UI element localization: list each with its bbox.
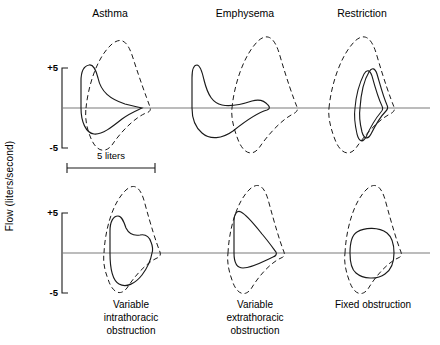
panel-label-fixed-obstruction: Fixed obstruction <box>335 299 411 310</box>
panel-asthma <box>81 40 150 150</box>
fo-label-line1: Fixed obstruction <box>335 299 411 310</box>
emphysema-patient-loop <box>192 65 269 138</box>
panel-restriction <box>329 37 395 153</box>
panel-label-variable-extrathoracic: Variable extrathoracic obstruction <box>226 299 283 336</box>
veo-label-line3: obstruction <box>231 325 280 336</box>
row2-y-axis: +5 -5 <box>47 207 430 298</box>
flow-volume-chart-svg: Flow (liters/second) +5 -5 Asthma Emphys… <box>0 0 440 345</box>
scale-bar-group: 5 liters <box>67 150 155 173</box>
panel-emphysema <box>192 37 297 153</box>
panel-variable-intrathoracic-obstruction <box>104 186 161 292</box>
vio-label-line2: intrathoracic <box>104 312 158 323</box>
restriction-patient-loop-inner <box>355 71 383 141</box>
flow-volume-loop-figure: Flow (liters/second) +5 -5 Asthma Emphys… <box>0 0 440 345</box>
fo-normal-loop <box>345 185 402 293</box>
row1-tick-negative: -5 <box>50 142 59 153</box>
panel-title-restriction: Restriction <box>337 7 387 19</box>
veo-label-line2: extrathoracic <box>226 312 283 323</box>
row1-tick-positive: +5 <box>47 62 59 73</box>
panel-title-asthma: Asthma <box>92 7 128 19</box>
vio-label-line1: Variable <box>113 299 149 310</box>
row2-tick-negative: -5 <box>50 287 59 298</box>
veo-label-line1: Variable <box>237 299 273 310</box>
vio-patient-loop <box>110 216 153 286</box>
row2-tick-positive: +5 <box>47 207 59 218</box>
panel-fixed-obstruction <box>345 185 402 293</box>
vio-normal-loop <box>104 186 161 292</box>
veo-normal-loop <box>228 185 285 293</box>
panel-variable-extrathoracic-obstruction <box>228 185 285 293</box>
veo-patient-loop <box>234 211 276 268</box>
panel-title-emphysema: Emphysema <box>216 7 275 19</box>
emphysema-normal-loop <box>232 37 298 153</box>
y-axis-title: Flow (liters/second) <box>4 141 15 232</box>
vio-label-line3: obstruction <box>107 325 156 336</box>
restriction-patient-loop <box>360 69 388 138</box>
scale-bar-label: 5 liters <box>97 150 125 161</box>
panel-label-variable-intrathoracic: Variable intrathoracic obstruction <box>104 299 158 336</box>
asthma-patient-loop <box>81 65 142 134</box>
